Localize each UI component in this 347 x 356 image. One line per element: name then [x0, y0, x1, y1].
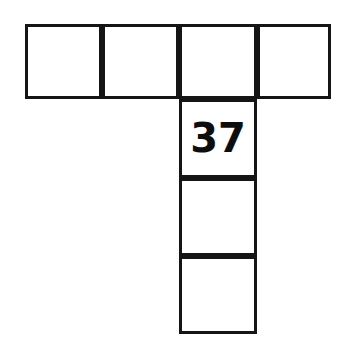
top-row-cell-2	[102, 24, 179, 99]
stem-cell-2	[179, 178, 257, 256]
top-row-cell-3	[179, 24, 257, 99]
stem-cell-3	[179, 256, 257, 334]
top-row-cell-1	[25, 24, 102, 99]
stem-cell-1: 37	[179, 99, 257, 178]
figure-canvas: 37	[0, 0, 347, 356]
top-row-cell-4	[257, 24, 331, 99]
cell-label: 37	[190, 118, 246, 158]
